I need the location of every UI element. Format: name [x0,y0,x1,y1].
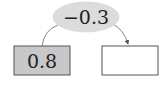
input-value: 0.8 [14,49,70,73]
operator-label: −0.3 [53,5,119,29]
output-value[interactable] [102,49,158,73]
